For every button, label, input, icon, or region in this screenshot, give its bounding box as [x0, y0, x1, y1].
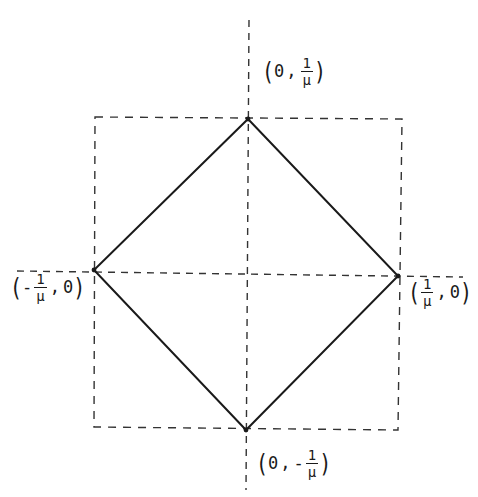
numerator: 1 — [306, 448, 318, 464]
denominator: μ — [308, 464, 316, 479]
open-paren: ( — [256, 452, 268, 476]
vertex-top — [246, 117, 251, 122]
label-left-vertex: ( - 1 μ , 0 ) — [10, 272, 85, 303]
label-top-vertex: ( 0 , 1 μ ) — [262, 56, 326, 87]
coord-y: 0 — [63, 279, 73, 296]
label-bottom-vertex: ( 0 , - 1 μ ) — [256, 448, 331, 479]
vertex-right — [396, 274, 401, 279]
open-paren: ( — [10, 276, 22, 300]
vertex-left — [92, 268, 97, 273]
minus-sign: - — [294, 455, 304, 472]
numerator: 1 — [421, 277, 433, 293]
vertical-axis — [246, 20, 249, 490]
denominator: μ — [36, 288, 44, 303]
denominator: μ — [303, 72, 311, 87]
fraction: 1 μ — [301, 56, 313, 87]
numerator: 1 — [34, 272, 46, 288]
close-paren: ) — [319, 452, 331, 476]
coord-x: 0 — [274, 63, 284, 80]
fraction: 1 μ — [34, 272, 46, 303]
comma: , — [286, 63, 296, 80]
label-right-vertex: ( 1 μ , 0 ) — [408, 277, 472, 308]
open-paren: ( — [262, 60, 274, 84]
fraction: 1 μ — [306, 448, 318, 479]
comma: , — [436, 284, 446, 301]
diamond-shape — [94, 119, 398, 430]
close-paren: ) — [73, 276, 85, 300]
close-paren: ) — [314, 60, 326, 84]
coord-y: 0 — [450, 284, 460, 301]
open-paren: ( — [408, 281, 420, 305]
comma: , — [50, 279, 60, 296]
close-paren: ) — [460, 281, 472, 305]
numerator: 1 — [301, 56, 313, 72]
denominator: μ — [423, 293, 431, 308]
diamond-diagram — [0, 0, 478, 497]
coord-x: 0 — [268, 455, 278, 472]
minus-sign: - — [22, 279, 32, 296]
comma: , — [280, 455, 290, 472]
vertex-bottom — [244, 428, 249, 433]
fraction: 1 μ — [421, 277, 433, 308]
